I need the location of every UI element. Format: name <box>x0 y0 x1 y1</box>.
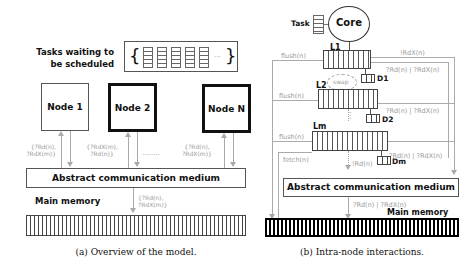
arrow-down-icon <box>134 162 140 167</box>
abstract-communication-medium-a: Abstract communication medium <box>26 168 246 188</box>
dm-label: Dm <box>392 157 406 166</box>
l1-top-request-line <box>371 57 454 58</box>
main-memory-label-b: Main memory <box>387 208 448 217</box>
annotation-line: {?RdX(m), <box>80 143 124 150</box>
main-memory-label-a: Main memory <box>35 196 100 206</box>
d1-label: D1 <box>377 74 388 83</box>
queued-task-icon <box>143 47 153 68</box>
arrow-down-icon <box>230 162 236 167</box>
caption-b: (b) Intra-node interactions. <box>265 247 459 257</box>
annotation-line: {?Rd(n), <box>138 194 168 201</box>
arrow-down-icon <box>67 162 73 167</box>
caption-a: (a) Overview of the model. <box>26 247 246 257</box>
medium-label: Abstract communication medium <box>52 173 220 183</box>
node-n-label: Node N <box>205 104 248 114</box>
node-1-up-line <box>61 136 62 169</box>
dm-directory <box>377 156 391 165</box>
node-n-annotation: {?Rd(n), ?RdX(m)} <box>174 143 220 157</box>
annotation-line: ?RdX(m)} <box>174 150 220 157</box>
queued-task-icon <box>171 47 181 68</box>
lm-flush-label: flush(n) <box>279 133 304 141</box>
memory-annotation: {?Rd(n), ?RdX(m)} <box>138 194 168 208</box>
l1-flush-line <box>272 60 323 61</box>
arrow-down-icon <box>451 170 457 175</box>
medium-label: Abstract communication medium <box>287 182 455 192</box>
d2-directory <box>366 114 380 123</box>
main-memory-a <box>26 215 246 236</box>
arrow-down-icon <box>130 208 136 213</box>
close-brace: } <box>225 46 236 66</box>
memory-line <box>133 188 134 210</box>
abstract-communication-medium-b: Abstract communication medium <box>283 178 459 197</box>
d1-directory <box>361 74 375 83</box>
level-continuation <box>348 109 349 121</box>
l2-flush-line <box>272 100 318 101</box>
task-queue: { ... } <box>124 41 238 72</box>
node-2-down-line <box>137 132 138 163</box>
swap-label: swap <box>333 78 349 85</box>
annotation-line: {?Rd(n), <box>18 143 56 150</box>
node-1: Node 1 <box>41 83 89 131</box>
main-memory-b <box>265 218 459 237</box>
annotation-line: ?Rd(n)} <box>80 150 124 157</box>
d2-label: D2 <box>382 115 393 124</box>
lm-label: Lm <box>313 122 326 131</box>
node-n-down-line <box>233 133 234 163</box>
top-request-label: !RdX(n) <box>400 49 425 57</box>
fetch-line <box>278 152 279 218</box>
l1-request-label: ?Rd(n) | ?RdX(n) <box>386 66 439 74</box>
lm-flush-line <box>272 141 312 142</box>
core-l1-link <box>349 42 350 50</box>
lm-down-label: !Rd(n) <box>352 160 372 168</box>
left-flush-bus <box>272 60 273 218</box>
arrow-up-icon <box>58 131 64 136</box>
queued-task-icon <box>199 47 209 68</box>
queued-task-icon <box>185 47 195 68</box>
tasks-waiting-label: Tasks waiting to be scheduled <box>30 46 114 70</box>
task-stack-icon <box>313 15 324 34</box>
node-n: Node N <box>202 84 251 133</box>
fetch-h-line <box>278 152 312 153</box>
nodes-ellipsis: ........ <box>142 149 160 157</box>
annotation-line: {?Rd(n), <box>174 143 220 150</box>
l1-request-line <box>371 62 448 63</box>
l2-request-line <box>378 103 454 104</box>
annotation-line: ?RdX(m)} <box>138 201 168 208</box>
l2-request-label: ?Rd(n) | ?RdX(n) <box>386 107 439 115</box>
node-2-annotation: {?RdX(m), ?Rd(n)} <box>80 143 124 157</box>
lm-cache <box>312 131 388 151</box>
annotation-line: ?RdX(m)} <box>18 150 56 157</box>
right-request-bus <box>454 57 455 171</box>
arrow-up-icon <box>221 133 227 138</box>
arrow-down-icon <box>345 165 351 170</box>
node-1-annotation: {?Rd(n), ?RdX(m)} <box>18 143 56 157</box>
lm-request-line <box>388 141 454 142</box>
node-2-up-line <box>128 137 129 169</box>
node-2: Node 2 <box>108 83 157 132</box>
l1-flush-label: flush(n) <box>281 52 306 60</box>
tasks-label-line1: Tasks waiting to <box>30 46 114 58</box>
open-brace: { <box>129 46 140 66</box>
core-circle: Core <box>328 6 370 42</box>
l2-flush-label: flush(n) <box>279 92 304 100</box>
fetch-label: fetch(n) <box>283 156 309 164</box>
queue-ellipsis: ... <box>214 51 221 59</box>
l2-cache <box>318 89 378 109</box>
task-label: Task <box>291 19 310 28</box>
node-1-label: Node 1 <box>42 102 88 112</box>
queued-task-icon <box>157 47 167 68</box>
node-n-up-line <box>224 138 225 169</box>
core-label: Core <box>329 17 369 28</box>
node-2-label: Node 2 <box>111 103 154 113</box>
inner-request-bus <box>448 62 449 158</box>
l1-cache <box>323 50 371 69</box>
arrow-up-icon <box>125 132 131 137</box>
node-1-down-line <box>70 131 71 163</box>
tasks-label-line2: be scheduled <box>30 58 114 70</box>
